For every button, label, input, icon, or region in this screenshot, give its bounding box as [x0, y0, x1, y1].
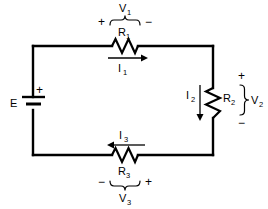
current-arrow-I2-head [197, 114, 204, 121]
current-arrow-I1-head [141, 55, 148, 62]
label-R3: R [118, 165, 126, 177]
label-V1-subscript: 1 [127, 8, 131, 17]
label-I2-subscript: 2 [191, 95, 195, 104]
label-I3: I [119, 129, 122, 141]
circuit-canvas: E + V 1 + − R 1 I 1 R 2 I 2 + − V 2 [0, 0, 268, 209]
label-R2-subscript: 2 [231, 98, 235, 107]
resistor-R1-symbol [112, 39, 138, 53]
label-V3: V [119, 192, 127, 204]
brace-V2 [240, 85, 249, 115]
current-arrow-I3-head [107, 142, 114, 149]
resistor-R3-symbol [112, 148, 138, 162]
label-R3-subscript: 3 [126, 171, 130, 180]
battery-plus-sign: + [36, 83, 43, 97]
label-I3-subscript: 3 [124, 135, 128, 144]
polarity-minus-R2-bottom: − [238, 116, 245, 130]
label-R1: R [118, 26, 126, 38]
polarity-plus-R3-right: + [145, 175, 152, 189]
brace-V3 [110, 181, 140, 191]
label-R1-subscript: 1 [126, 32, 130, 41]
polarity-plus-R2-top: + [238, 69, 245, 83]
label-I1-subscript: 1 [123, 68, 127, 77]
label-I2: I [186, 89, 189, 101]
circuit-diagram: E + V 1 + − R 1 I 1 R 2 I 2 + − V 2 [0, 0, 268, 209]
polarity-minus-R3-left: − [98, 175, 105, 189]
resistor-R2-symbol [206, 88, 220, 118]
label-I1: I [118, 62, 121, 74]
label-V3-subscript: 3 [127, 198, 131, 207]
label-V2: V [251, 94, 259, 106]
polarity-plus-R1-left: + [98, 15, 105, 29]
brace-V1 [110, 16, 140, 26]
label-V1: V [119, 2, 127, 14]
label-V2-subscript: 2 [259, 100, 263, 109]
label-R2: R [223, 92, 231, 104]
polarity-minus-R1-right: − [145, 15, 152, 29]
source-label-E: E [10, 97, 17, 109]
